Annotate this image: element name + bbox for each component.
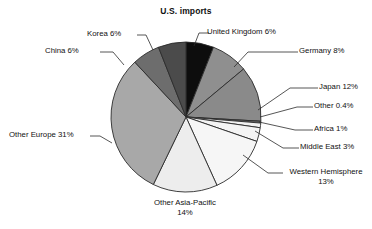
slice-label-united-kingdom: United Kingdom 6% — [207, 27, 276, 37]
slice-label-western-hemisphere-line2: 13% — [318, 177, 334, 186]
slice-label-other-asia-pacific: Other Asia-Pacific 14% — [118, 198, 252, 217]
slice-label-africa: Africa 1% — [314, 124, 347, 134]
pie-chart-graphic — [0, 0, 372, 229]
slice-label-china: China 6% — [45, 46, 79, 56]
slice-label-other-asia-pacific-line1: Other Asia-Pacific — [154, 198, 216, 207]
slice-label-korea: Korea 6% — [87, 29, 121, 39]
leader-line-middle-east — [255, 131, 299, 148]
leader-line-germany — [234, 52, 298, 67]
leader-line-africa — [259, 122, 313, 130]
leader-line-other — [260, 107, 313, 117]
slice-label-middle-east: Middle East 3% — [300, 142, 354, 152]
slice-label-other: Other 0.4% — [314, 101, 353, 111]
pie-chart-figure: U.S. imports United Kingdom 6% Germany 8… — [0, 0, 372, 229]
slice-label-japan: Japan 12% — [319, 82, 358, 92]
slice-label-other-asia-pacific-line2: 14% — [177, 208, 193, 217]
slice-label-western-hemisphere: Western Hemisphere 13% — [281, 167, 371, 186]
slice-label-western-hemisphere-line1: Western Hemisphere — [289, 167, 362, 176]
leader-line-korea — [137, 35, 153, 50]
slice-label-other-europe: Other Europe 31% — [9, 130, 74, 140]
pie-slice-group — [111, 42, 261, 192]
leader-line-other-europe — [90, 136, 112, 143]
slice-label-germany: Germany 8% — [299, 46, 345, 56]
leader-line-china — [100, 52, 124, 65]
